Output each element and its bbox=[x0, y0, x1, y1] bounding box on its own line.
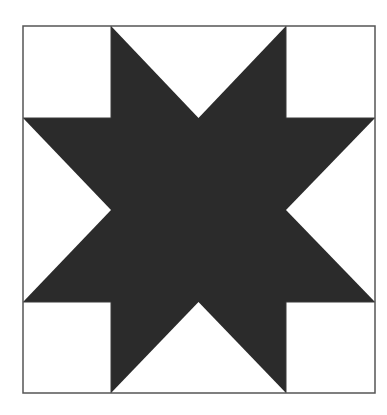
star-center-square bbox=[111, 118, 286, 302]
quilt-star-diagram bbox=[0, 0, 387, 415]
